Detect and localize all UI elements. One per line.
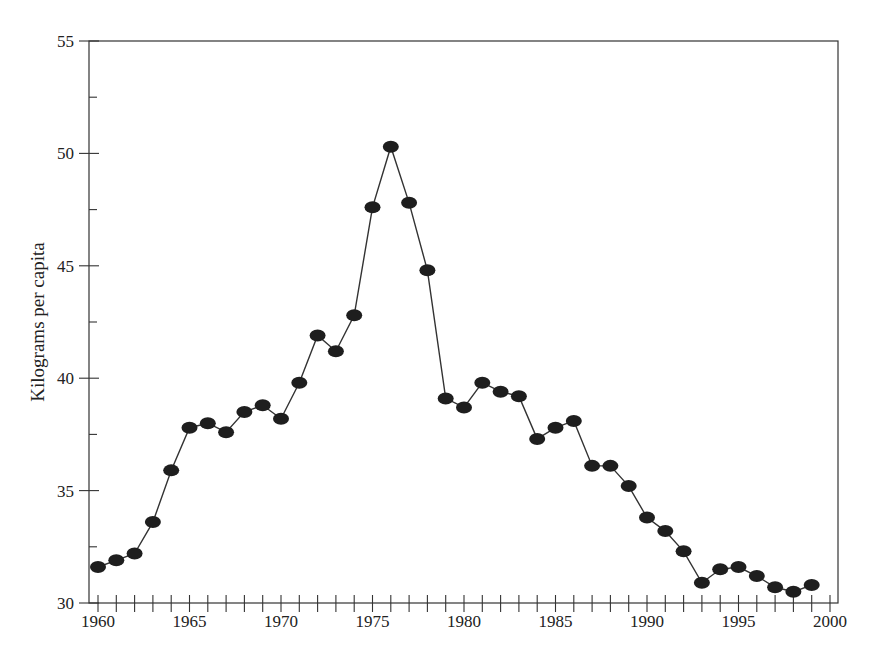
data-point [548, 422, 564, 434]
x-tick-label: 1990 [630, 612, 664, 631]
data-point [529, 433, 545, 445]
data-point [657, 525, 673, 537]
data-point [419, 264, 435, 276]
data-point [236, 406, 252, 418]
line-chart: 303540455055 196019651970197519801985199… [0, 0, 873, 653]
data-point [383, 141, 399, 153]
data-point [145, 516, 161, 528]
data-point [346, 309, 362, 321]
y-tick-label: 55 [57, 32, 74, 51]
series-line [98, 147, 812, 592]
y-tick-label: 40 [57, 369, 74, 388]
x-tick-label: 1965 [173, 612, 207, 631]
data-point [474, 377, 490, 389]
data-point [456, 401, 472, 413]
x-tick-label: 2000 [813, 612, 847, 631]
data-point [310, 329, 326, 341]
data-point [255, 399, 271, 411]
y-axis: 303540455055 [57, 32, 99, 613]
data-point [602, 460, 618, 472]
data-point [182, 422, 198, 434]
data-point [493, 386, 509, 398]
x-tick-label: 1985 [539, 612, 573, 631]
data-point [438, 392, 454, 404]
data-point [676, 545, 692, 557]
y-tick-label: 50 [57, 144, 74, 163]
x-axis: 196019651970197519801985199019952000 [81, 595, 847, 631]
data-point [566, 415, 582, 427]
data-point [785, 586, 801, 598]
data-point [804, 579, 820, 591]
y-axis-label: Kilograms per capita [27, 242, 48, 402]
x-tick-label: 1995 [722, 612, 756, 631]
data-point [291, 377, 307, 389]
data-point [163, 464, 179, 476]
data-point [511, 390, 527, 402]
data-point [108, 554, 124, 566]
data-point [365, 201, 381, 213]
data-point [584, 460, 600, 472]
x-tick-label: 1960 [81, 612, 115, 631]
data-point [200, 417, 216, 429]
x-tick-label: 1975 [356, 612, 390, 631]
y-tick-label: 35 [57, 482, 74, 501]
data-point [328, 345, 344, 357]
data-series [90, 141, 820, 598]
plot-frame [89, 41, 838, 603]
data-point [694, 577, 710, 589]
data-point [621, 480, 637, 492]
y-tick-label: 30 [57, 594, 74, 613]
data-point [218, 426, 234, 438]
y-tick-label: 45 [57, 257, 74, 276]
plot-border [89, 41, 838, 603]
data-point [767, 581, 783, 593]
x-tick-label: 1970 [264, 612, 298, 631]
data-point [273, 413, 289, 425]
data-point [90, 561, 106, 573]
data-point [749, 570, 765, 582]
data-point [712, 563, 728, 575]
data-point [127, 548, 143, 560]
data-point [639, 512, 655, 524]
data-point [731, 561, 747, 573]
data-point [401, 197, 417, 209]
x-tick-label: 1980 [447, 612, 481, 631]
